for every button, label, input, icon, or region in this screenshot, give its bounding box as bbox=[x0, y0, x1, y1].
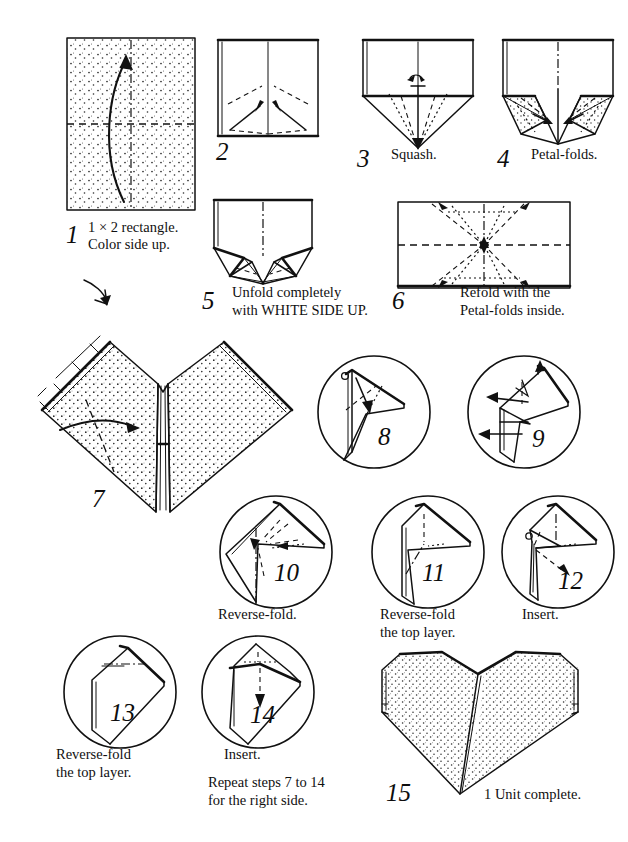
step-2-number: 2 bbox=[216, 139, 229, 164]
step-6-figure bbox=[392, 196, 577, 291]
step-4-figure bbox=[495, 34, 628, 149]
step-3-caption-line1: Squash. bbox=[391, 146, 437, 163]
step-13-number: 13 bbox=[110, 700, 135, 725]
step-9-number: 9 bbox=[532, 426, 545, 451]
step-12: 12 Insert. bbox=[496, 492, 626, 637]
step-3-figure bbox=[355, 34, 495, 149]
step-2: 2 bbox=[210, 34, 340, 164]
step-14-caption-line1: Insert. bbox=[224, 746, 261, 763]
step-11-number: 11 bbox=[422, 560, 445, 585]
step-1-caption-line2: Color side up. bbox=[88, 236, 170, 253]
step-4-number: 4 bbox=[497, 146, 510, 171]
step-10-caption-line1: Reverse-fold. bbox=[218, 606, 297, 623]
diagram-page: 1 1 × 2 rectangle. Color side up. 2 bbox=[0, 0, 628, 842]
step-11: 11 Reverse-fold the top layer. bbox=[366, 492, 496, 642]
step-12-number: 12 bbox=[558, 568, 583, 593]
step-10: 10 Reverse-fold. bbox=[214, 492, 344, 632]
step-13-figure bbox=[58, 632, 188, 754]
step-4: 4 Petal-folds. bbox=[495, 34, 628, 164]
step-6-number: 6 bbox=[392, 288, 405, 313]
step-7-number: 7 bbox=[92, 486, 105, 511]
step-14: 14 Insert. Repeat steps 7 to 14 for the … bbox=[194, 632, 374, 812]
step-11-caption-line2: the top layer. bbox=[380, 624, 455, 641]
repeat-note-line2: for the right side. bbox=[208, 792, 308, 809]
step-7-figure bbox=[28, 326, 318, 516]
step-3: 3 Squash. bbox=[355, 34, 505, 164]
step-5-figure bbox=[200, 196, 350, 291]
step-5: 5 Unfold completely with WHITE SIDE UP. bbox=[200, 196, 410, 326]
step-14-number: 14 bbox=[250, 702, 275, 727]
step-8: 8 bbox=[312, 352, 442, 477]
step-10-figure bbox=[214, 492, 342, 614]
step-15-number: 15 bbox=[386, 780, 411, 805]
step-13-caption-line1: Reverse-fold bbox=[56, 746, 131, 763]
repeat-note-line1: Repeat steps 7 to 14 bbox=[208, 774, 325, 791]
step-5-number: 5 bbox=[202, 288, 215, 313]
step-3-number: 3 bbox=[357, 146, 370, 171]
turnover-arrow-icon bbox=[80, 278, 120, 310]
step-1-figure bbox=[60, 34, 210, 219]
step-13: 13 Reverse-fold the top layer. bbox=[58, 632, 198, 782]
step-11-caption-line1: Reverse-fold bbox=[380, 606, 455, 623]
step-5-caption-line2: with WHITE SIDE UP. bbox=[232, 302, 368, 319]
step-6-caption-line1: Refold with the bbox=[460, 284, 550, 301]
step-10-number: 10 bbox=[274, 560, 299, 585]
step-9-figure bbox=[458, 352, 590, 474]
step-14-figure bbox=[194, 632, 329, 754]
step-8-figure bbox=[312, 352, 440, 474]
step-1: 1 1 × 2 rectangle. Color side up. bbox=[60, 34, 210, 254]
step-1-caption-line1: 1 × 2 rectangle. bbox=[88, 219, 178, 236]
turn-over-arrow bbox=[80, 278, 120, 310]
step-15-caption-line1: 1 Unit complete. bbox=[484, 786, 581, 803]
step-9: 9 bbox=[458, 352, 593, 477]
step-4-caption-line1: Petal-folds. bbox=[531, 146, 597, 163]
step-1-number: 1 bbox=[66, 222, 79, 247]
step-11-figure bbox=[366, 492, 494, 614]
step-5-caption-line1: Unfold completely bbox=[232, 284, 341, 301]
step-6-caption-line2: Petal-folds inside. bbox=[460, 302, 565, 319]
step-15: 15 1 Unit complete. bbox=[366, 644, 616, 814]
step-8-number: 8 bbox=[378, 424, 391, 449]
step-12-caption-line1: Insert. bbox=[522, 606, 559, 623]
step-12-figure bbox=[496, 492, 624, 614]
step-13-caption-line2: the top layer. bbox=[56, 764, 131, 781]
step-6: 6 Refold with the Petal-folds inside. bbox=[392, 196, 622, 326]
step-2-figure bbox=[210, 34, 340, 149]
